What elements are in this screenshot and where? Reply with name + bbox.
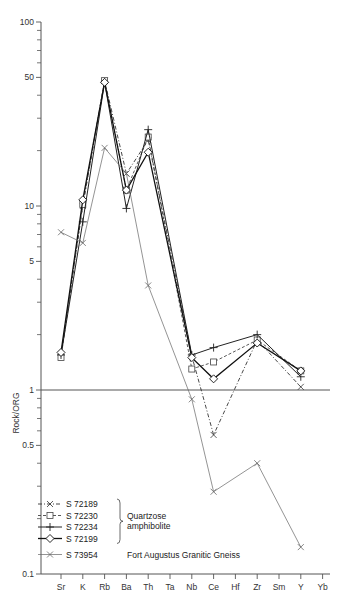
series-s-73954-x-marker-icon <box>211 489 217 495</box>
y-tick-label: 0.5 <box>22 440 34 450</box>
x-tick-label-nb: Nb <box>186 582 197 592</box>
series-s-73954-x-marker-icon <box>58 229 64 235</box>
legend-group-label: amphibolite <box>127 521 171 531</box>
x-tick-label-zr: Zr <box>253 582 261 592</box>
chart-canvas: 1005010510.50.1Rock/ORGSrKRbBaThTaNbCeHf… <box>0 0 350 604</box>
y-tick-label: 50 <box>25 72 35 82</box>
x-tick-label-rb: Rb <box>99 582 110 592</box>
legend-s-72234-plus-marker-icon <box>46 523 54 531</box>
series-s-72199-diamond-marker-icon <box>144 148 152 156</box>
x-tick-label-ce: Ce <box>208 582 219 592</box>
x-tick-label-th: Th <box>143 582 153 592</box>
series-s-72230-square-marker-icon <box>211 359 217 365</box>
x-tick-label-k: K <box>80 582 86 592</box>
series-s-73954-x-marker-icon <box>189 396 195 402</box>
legend-label: S 72230 <box>66 511 98 521</box>
y-tick-label: 10 <box>25 201 35 211</box>
y-tick-label: 0.1 <box>22 569 34 579</box>
series-s-73954-x-marker-icon <box>123 171 129 177</box>
x-tick-label-yb: Yb <box>317 582 328 592</box>
legend-label: S 72199 <box>66 534 98 544</box>
x-tick-label-ba: Ba <box>121 582 132 592</box>
x-tick-label-sr: Sr <box>57 582 66 592</box>
series-s-72230-square-marker-icon <box>189 366 195 372</box>
y-tick-label: 100 <box>20 17 34 27</box>
spider-diagram: 1005010510.50.1Rock/ORGSrKRbBaThTaNbCeHf… <box>0 0 350 604</box>
series-line-s-72199 <box>61 82 301 379</box>
x-tick-label-hf: Hf <box>231 582 240 592</box>
series-s-73954-x-marker-icon <box>102 145 108 151</box>
legend-group-label: Fort Augustus Granitic Gneiss <box>127 550 240 560</box>
series-s-72189-x-marker-icon <box>211 432 217 438</box>
legend-group-brace <box>117 499 123 544</box>
x-tick-label-sm: Sm <box>273 582 286 592</box>
x-tick-label-ta: Ta <box>166 582 175 592</box>
series-s-73954-x-marker-icon <box>145 282 151 288</box>
series-s-73954-x-marker-icon <box>298 544 304 550</box>
legend-s-72199-diamond-marker-icon <box>46 535 54 543</box>
y-tick-label: 5 <box>29 256 34 266</box>
series-s-73954-x-marker-icon <box>254 460 260 466</box>
y-tick-label: 1 <box>29 385 34 395</box>
series-s-72189-x-marker-icon <box>298 384 304 390</box>
legend-group-label: Quartzose <box>127 511 166 521</box>
series-s-72234-plus-marker-icon <box>122 204 130 212</box>
legend-label: S 72189 <box>66 499 98 509</box>
x-tick-label-y: Y <box>298 582 304 592</box>
legend-label: S 72234 <box>66 522 98 532</box>
series-s-73954-x-marker-icon <box>80 240 86 246</box>
legend-label: S 73954 <box>66 550 98 560</box>
series-s-72234-plus-marker-icon <box>144 126 152 134</box>
y-axis-title: Rock/ORG <box>11 392 21 433</box>
legend-s-72230-square-marker-icon <box>47 513 53 519</box>
series-s-72234-plus-marker-icon <box>210 344 218 352</box>
